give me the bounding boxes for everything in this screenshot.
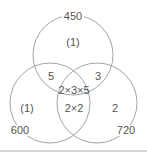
region-bottom-center-label: 2×2	[65, 102, 84, 114]
bottom-divider	[0, 150, 147, 152]
region-top-only-label: (1)	[66, 36, 79, 48]
set-720-label: 720	[117, 124, 135, 136]
venn-diagram: 450600720(1)532×3×5(1)2×22	[0, 0, 147, 148]
region-top-right-label: 3	[95, 70, 101, 82]
set-450-circle	[33, 15, 113, 95]
set-600-label: 600	[11, 124, 29, 136]
region-right-only-label: 2	[112, 102, 118, 114]
region-top-left-label: 5	[48, 70, 54, 82]
region-left-only-label: (1)	[20, 102, 33, 114]
region-center-label: 2×3×5	[58, 84, 89, 96]
set-450-label: 450	[64, 10, 82, 22]
